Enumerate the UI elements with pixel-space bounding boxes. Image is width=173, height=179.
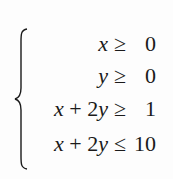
row-2-rhs: 0	[130, 61, 156, 91]
row-2-relation: ≥	[110, 61, 130, 91]
inequality-row-2: y ≥ 0	[98, 61, 156, 91]
row-3-var-x: x	[54, 96, 64, 121]
row-1-rhs: 0	[130, 29, 156, 59]
row-1-relation: ≥	[110, 29, 130, 59]
row-4-var-y: y	[98, 131, 108, 156]
inequality-row-1: x ≥ 0	[98, 29, 156, 59]
row-3-plus-coef: + 2	[64, 94, 98, 124]
row-2-var-y: y	[98, 63, 108, 88]
row-1-var-x: x	[98, 31, 108, 56]
row-1-lhs: x	[98, 29, 108, 59]
row-4-var-x: x	[54, 131, 64, 156]
row-4-lhs: x + 2y	[54, 129, 108, 159]
row-4-rhs: 10	[130, 129, 156, 159]
row-4-plus-coef: + 2	[64, 129, 98, 159]
inequality-row-3: x + 2y ≥ 1	[54, 94, 156, 124]
row-2-lhs: y	[98, 61, 108, 91]
row-3-lhs: x + 2y	[54, 94, 108, 124]
row-3-rhs: 1	[130, 94, 156, 124]
inequality-row-4: x + 2y ≤ 10	[54, 129, 156, 159]
row-3-var-y: y	[98, 96, 108, 121]
left-curly-brace	[14, 28, 30, 170]
row-3-relation: ≥	[110, 94, 130, 124]
row-4-relation: ≤	[110, 129, 130, 159]
